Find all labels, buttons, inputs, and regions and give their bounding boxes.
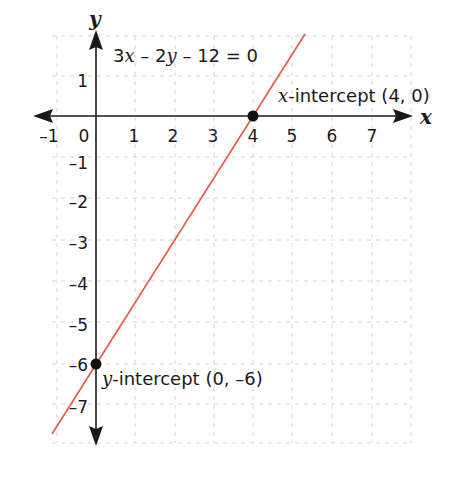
- y-tick: –4: [69, 274, 88, 294]
- x-tick: –1: [39, 126, 58, 146]
- chart: x y –1 0 1 2 3 4 5 6 7 1 –1 –2 –3 –4 –5 …: [0, 0, 456, 480]
- equation-label: 3x – 2y – 12 = 0: [113, 45, 258, 66]
- y-axis-label: y: [88, 7, 102, 31]
- x-axis-right-arrow-icon: [393, 109, 413, 123]
- x-tick: 4: [248, 126, 259, 146]
- x-tick: 6: [327, 126, 338, 146]
- x-tick: 5: [287, 126, 298, 146]
- y-tick: –6: [69, 355, 88, 375]
- x-tick: 0: [79, 126, 90, 146]
- y-axis-up-arrow-icon: [89, 30, 103, 50]
- x-tick: 1: [129, 126, 140, 146]
- x-intercept-point: [248, 111, 259, 122]
- y-tick: 1: [77, 71, 88, 91]
- y-intercept-label: y-intercept (0, –6): [101, 368, 263, 389]
- y-tick: –2: [69, 192, 88, 212]
- x-axis-label: x: [419, 105, 433, 129]
- x-tick: 3: [208, 126, 219, 146]
- x-tick-labels: –1 0 1 2 3 4 5 6 7: [39, 126, 377, 146]
- y-intercept-point: [91, 359, 102, 370]
- x-tick: 2: [168, 126, 179, 146]
- x-intercept-label: x-intercept (4, 0): [278, 85, 430, 106]
- y-tick: –3: [69, 233, 88, 253]
- y-tick: –7: [69, 397, 88, 417]
- x-tick: 7: [367, 126, 378, 146]
- y-axis: y: [88, 7, 103, 446]
- x-axis-left-arrow-icon: [33, 109, 53, 123]
- y-tick: –5: [69, 315, 88, 335]
- y-tick: –1: [69, 153, 88, 173]
- y-tick-labels: 1 –1 –2 –3 –4 –5 –6 –7: [69, 71, 88, 417]
